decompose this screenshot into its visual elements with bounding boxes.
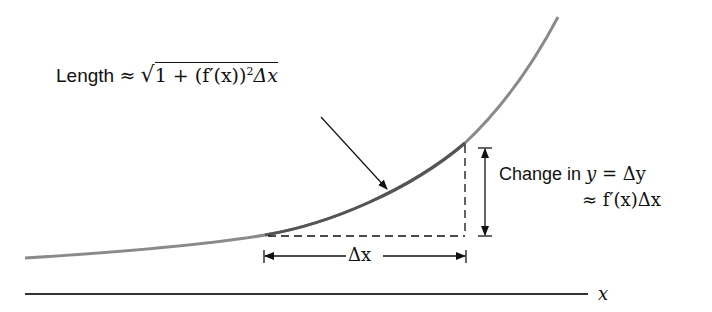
length-text: Length <box>56 65 114 86</box>
dx-label: Δx <box>348 244 371 265</box>
x-axis-label: x <box>598 283 608 304</box>
radicand-text: 1 + (f′(x)) <box>155 64 247 86</box>
length-label: Length ≈ √1 + (f′(x))2Δx <box>56 62 278 87</box>
length-pointer-arrow <box>321 117 387 189</box>
change-text: Change in <box>499 164 586 184</box>
dy-arrow <box>478 148 492 236</box>
sqrt-symbol: √ <box>141 62 155 87</box>
y-var: y <box>586 163 596 184</box>
change-label-line2: ≈ f′(x)Δx <box>582 189 661 210</box>
curve-segment-highlight <box>265 143 465 235</box>
approx-symbol: ≈ <box>119 64 135 86</box>
dy-eq: = Δy <box>596 163 646 184</box>
radicand: 1 + (f′(x))2Δx <box>155 62 278 86</box>
arc-length-diagram <box>0 0 712 312</box>
change-label-line1: Change in y = Δy <box>499 163 646 185</box>
function-curve <box>25 17 558 258</box>
delta-x-text: Δx <box>253 64 277 86</box>
